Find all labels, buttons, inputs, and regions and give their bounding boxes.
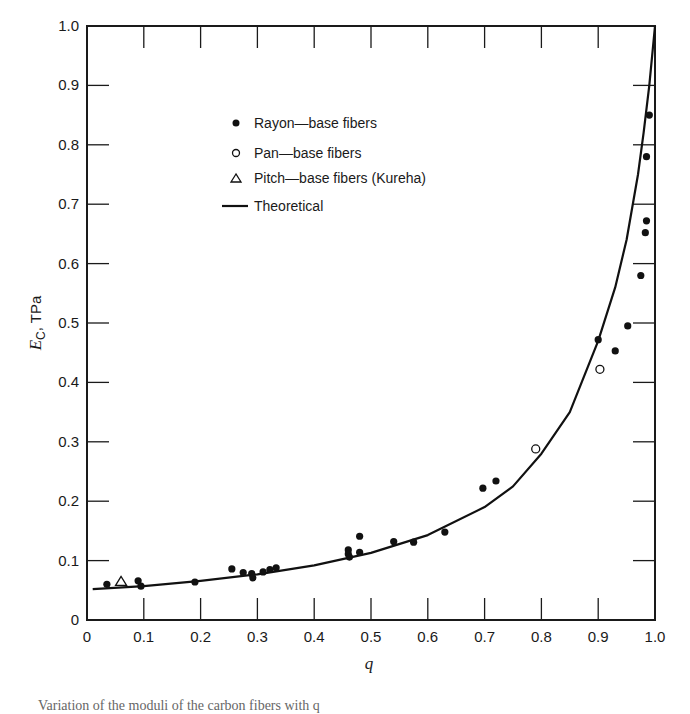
rayon-data-point: [356, 549, 363, 556]
x-tick-label: 0.8: [531, 628, 552, 645]
x-tick-label: 0.1: [133, 628, 154, 645]
x-axis-label: q: [365, 654, 374, 673]
pan-data-point: [596, 365, 604, 373]
rayon-data-point: [356, 533, 363, 540]
data-series: [93, 26, 655, 590]
y-tick-label: 0.7: [58, 195, 79, 212]
y-axis-tick-labels: 00.10.20.30.40.50.60.70.80.91.0: [58, 17, 79, 628]
y-axis-label: EC, TPa: [26, 295, 48, 351]
y-tick-label: 1.0: [58, 17, 79, 34]
rayon-data-point: [390, 538, 397, 545]
rayon-data-point: [240, 569, 247, 576]
legend-item-theoretical: Theoretical: [222, 198, 323, 214]
rayon-data-point: [642, 229, 649, 236]
x-tick-label: 0.4: [304, 628, 325, 645]
rayon-data-point: [259, 568, 266, 575]
rayon-data-point: [637, 272, 644, 279]
legend-item-pitch: Pitch—base fibers (Kureha): [231, 170, 426, 186]
y-tick-label: 0.6: [58, 255, 79, 272]
legend-item-rayon: Rayon—base fibers: [233, 115, 377, 131]
open-circle-icon: [233, 150, 240, 157]
rayon-data-point: [441, 528, 448, 535]
rayon-data-point: [492, 477, 499, 484]
legend-label: Pitch—base fibers (Kureha): [254, 170, 426, 186]
rayon-data-point: [346, 553, 353, 560]
rayon-data-point: [646, 112, 653, 119]
y-tick-label: 0.4: [58, 373, 79, 390]
y-tick-label: 0: [71, 611, 79, 628]
x-tick-label: 0.5: [361, 628, 382, 645]
x-tick-label: 0.2: [190, 628, 211, 645]
rayon-data-point: [612, 347, 619, 354]
y-axis-ticks: [87, 85, 655, 560]
y-tick-label: 0.9: [58, 76, 79, 93]
filled-circle-icon: [233, 120, 240, 127]
legend-item-pan: Pan—base fibers: [233, 145, 362, 161]
legend-label: Theoretical: [254, 198, 323, 214]
legend-label: Pan—base fibers: [254, 145, 361, 161]
svg-text:EC, TPa: EC, TPa: [26, 295, 48, 351]
x-tick-label: 1.0: [645, 628, 666, 645]
pitch-data-point: [116, 576, 127, 585]
rayon-data-point: [624, 322, 631, 329]
x-tick-label: 0: [83, 628, 91, 645]
rayon-data-point: [228, 565, 235, 572]
x-axis-tick-labels: 00.10.20.30.40.50.60.70.80.91.0: [83, 628, 666, 645]
pan-data-point: [532, 445, 540, 453]
rayon-data-point: [595, 336, 602, 343]
y-tick-label: 0.5: [58, 314, 79, 331]
rayon-data-point: [249, 574, 256, 581]
y-axis-label-sub: C: [34, 331, 48, 340]
y-axis-label-unit: , TPa: [27, 295, 44, 331]
rayon-data-point: [643, 153, 650, 160]
open-triangle-icon: [231, 174, 241, 182]
y-axis-label-main: E: [26, 339, 45, 351]
rayon-data-point: [410, 539, 417, 546]
y-tick-label: 0.1: [58, 552, 79, 569]
rayon-data-point: [479, 485, 486, 492]
rayon-data-point: [191, 578, 198, 585]
rayon-data-point: [137, 583, 144, 590]
legend: Rayon—base fibers Pan—base fibers Pitch—…: [222, 115, 426, 214]
y-tick-label: 0.8: [58, 136, 79, 153]
rayon-data-point: [266, 566, 273, 573]
theoretical-curve: [93, 26, 655, 589]
rayon-data-point: [273, 564, 280, 571]
x-tick-label: 0.3: [247, 628, 268, 645]
x-tick-label: 0.6: [417, 628, 438, 645]
y-tick-label: 0.2: [58, 492, 79, 509]
figure-caption-fragment: Variation of the moduli of the carbon fi…: [38, 698, 320, 714]
y-tick-label: 0.3: [58, 433, 79, 450]
rayon-data-point: [643, 217, 650, 224]
x-tick-label: 0.9: [588, 628, 609, 645]
x-tick-label: 0.7: [474, 628, 495, 645]
legend-label: Rayon—base fibers: [254, 115, 377, 131]
rayon-data-point: [103, 581, 110, 588]
